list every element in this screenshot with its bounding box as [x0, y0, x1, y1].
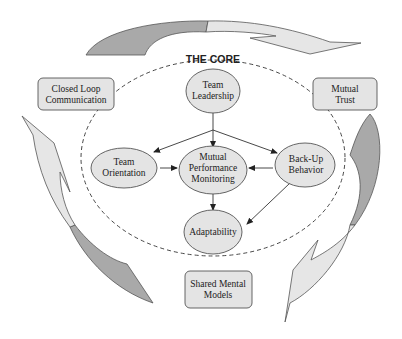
cycle-arrow-left	[22, 116, 153, 303]
cycle-arrow-top	[86, 21, 361, 55]
node-mpm-line1: Mutual	[199, 152, 227, 162]
node-team-orientation-line2: Orientation	[102, 168, 146, 178]
cycle-arrow-right-tail	[350, 114, 380, 225]
box-smm-line2: Models	[204, 290, 233, 300]
core-title: THE CORE	[186, 53, 240, 65]
diagram-canvas: THE CORE Team Leadership Team Orientatio…	[0, 0, 402, 339]
node-team-leadership-line2: Leadership	[192, 91, 234, 101]
node-team-orientation-line1: Team	[114, 157, 136, 167]
box-shared-mental-models: Shared Mental Models	[185, 271, 252, 308]
node-backup-behavior: Back-Up Behavior	[275, 143, 335, 187]
box-mutual-trust-line2: Trust	[335, 95, 355, 105]
box-mutual-trust-line1: Mutual	[331, 84, 359, 94]
node-adaptability-label: Adaptability	[189, 227, 237, 237]
box-mutual-trust: Mutual Trust	[313, 78, 377, 110]
cycle-arrow-top-tail	[86, 21, 208, 55]
box-smm-line1: Shared Mental	[190, 279, 246, 289]
node-backup-line1: Back-Up	[289, 154, 324, 164]
node-mpm-line2: Performance	[189, 163, 238, 173]
box-closed-loop-line2: Communication	[45, 95, 106, 105]
edge-backup-to-adaptability	[247, 183, 290, 224]
node-mutual-performance-monitoring: Mutual Performance Monitoring	[179, 146, 247, 194]
cycle-arrow-left-head	[22, 116, 75, 227]
node-backup-line2: Behavior	[289, 165, 325, 175]
node-adaptability: Adaptability	[184, 210, 242, 254]
node-team-leadership: Team Leadership	[186, 69, 240, 113]
cycle-arrow-top-head	[206, 21, 361, 54]
node-team-leadership-line1: Team	[203, 80, 225, 90]
box-closed-loop-communication: Closed Loop Communication	[38, 78, 114, 110]
node-team-orientation: Team Orientation	[91, 148, 157, 188]
cycle-arrow-left-tail	[70, 225, 153, 303]
node-mpm-line3: Monitoring	[191, 174, 235, 184]
cycle-arrow-right-head	[285, 225, 355, 322]
box-closed-loop-line1: Closed Loop	[52, 84, 101, 94]
